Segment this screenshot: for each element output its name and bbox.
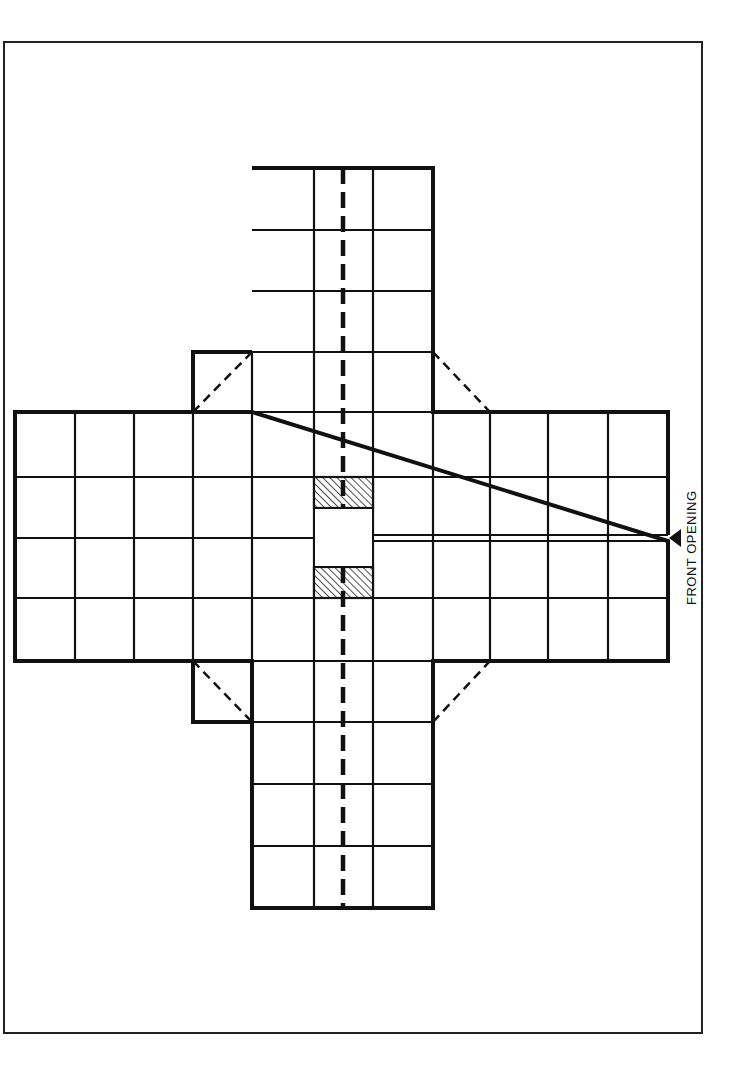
flap-lower-right-fold	[433, 661, 490, 722]
flap-upper-left-fold	[193, 352, 252, 412]
flap-lower-left-fold	[193, 661, 252, 722]
front-opening-arrow-icon	[669, 529, 681, 547]
front-opening-label: FRONT OPENING	[684, 490, 699, 605]
flap-upper-right-fold	[433, 352, 490, 412]
center-opening	[315, 509, 372, 566]
flap-upper-left-outline	[193, 352, 252, 412]
game-board-diagram: FRONT OPENING	[0, 0, 753, 1076]
flap-lower-left-outline	[193, 661, 252, 722]
